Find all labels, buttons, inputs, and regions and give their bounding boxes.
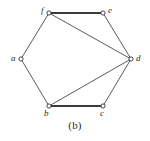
vertex-label-f: f — [41, 6, 44, 15]
vertex-label-b: b — [44, 109, 49, 118]
figure-caption: (b) — [0, 119, 150, 131]
graph-edge-af — [21, 13, 49, 59]
graph-figure: abcdef (b) — [0, 0, 150, 141]
graph-vertex-d — [129, 57, 133, 61]
vertex-label-e: e — [108, 6, 112, 15]
vertex-label-a: a — [11, 54, 16, 63]
vertex-label-c: c — [100, 109, 104, 118]
vertex-label-d: d — [136, 54, 141, 63]
edge-layer — [21, 13, 131, 106]
graph-edge-dc — [103, 59, 131, 106]
graph-vertex-f — [47, 11, 51, 15]
graph-edge-bd — [49, 59, 131, 106]
graph-edge-ed — [103, 13, 131, 59]
graph-vertex-a — [19, 57, 23, 61]
graph-vertex-e — [101, 11, 105, 15]
graph-edge-fd — [49, 13, 131, 59]
vertex-layer — [19, 11, 133, 108]
graph-edge-ba — [21, 59, 49, 106]
